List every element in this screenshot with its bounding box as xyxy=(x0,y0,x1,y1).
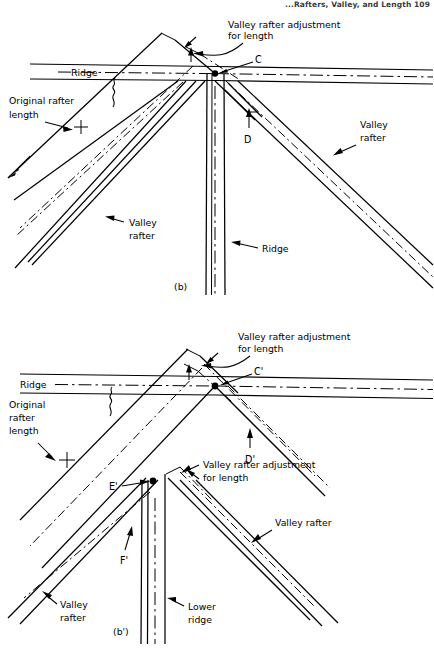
ridge-top-edge-right xyxy=(215,67,433,71)
ridge-centerline-left-bp xyxy=(55,385,213,387)
adj-tick-upper-b xyxy=(161,33,175,40)
adj2-tick-bp xyxy=(166,467,180,474)
label-original-bp-line1: Original xyxy=(9,399,45,410)
valley-main-centerline-bp xyxy=(30,368,202,546)
label-ridge-horizontal-b: Ridge xyxy=(71,67,98,78)
label-valley-left-bp-line2: rafter xyxy=(60,612,86,623)
ridge-bottom-edge-left xyxy=(30,79,215,81)
ridge-centerline-right-bp xyxy=(216,386,433,390)
ridge-top-edge-left-bp xyxy=(20,374,215,377)
lower-valley-right-outer-bp xyxy=(168,478,310,620)
label-ridge-vertical-b: Ridge xyxy=(262,243,289,254)
figure-b-drawing: Ridge D xyxy=(0,0,434,310)
label-point-c-prime-bp: C' xyxy=(254,366,263,377)
caption-figure-b-prime: (b') xyxy=(113,626,129,637)
valley-left-inner-edge-b xyxy=(32,81,205,265)
lower-ridge-left-edge-bp xyxy=(141,482,142,644)
arrowhead-d-prime-bp xyxy=(247,428,253,438)
label-lower-ridge-bp-line2: ridge xyxy=(188,614,212,625)
arrowhead-valley-right-b xyxy=(333,148,343,156)
lower-valley-left-inner-bp xyxy=(20,480,158,624)
label-point-c-b: C xyxy=(255,54,262,65)
lower-valley-right-centerline-bp xyxy=(180,472,316,608)
label-adjustment2-bp-line2: for length xyxy=(203,472,248,483)
ridge-bottom-edge-right xyxy=(215,81,433,85)
label-valley-right-bp: Valley rafter xyxy=(275,517,332,528)
valley-left-centerline-b xyxy=(20,66,193,228)
arrowhead-valley-right-bp xyxy=(251,534,261,543)
ridge-top-edge-right-bp xyxy=(215,377,433,381)
lower-ridge-inner-edge-bp xyxy=(148,480,149,644)
vertical-ridge-inner-left-b xyxy=(212,74,213,295)
arrowhead-original-rafter-b xyxy=(63,127,73,133)
label-valley-right-b-line2: rafter xyxy=(360,132,386,143)
label-adjustment-b-line2: for length xyxy=(228,30,273,41)
label-point-d-b: D xyxy=(244,134,251,145)
label-adjustment-bp-line2: for length xyxy=(238,343,283,354)
leader-adjustment-b xyxy=(198,43,243,55)
arrowhead-original-bp xyxy=(45,453,56,461)
ridge-bottom-edge-left-bp xyxy=(20,393,215,395)
label-adjustment-b-line1: Valley rafter adjustment xyxy=(228,19,341,30)
figure-b-prime-drawing: Ridge C' D' xyxy=(0,308,434,653)
arrowhead-ridge-vertical-b xyxy=(231,241,241,247)
label-valley-left-bp-line1: Valley xyxy=(60,599,88,610)
valley-left2-inner-edge-b xyxy=(15,81,186,268)
arrowhead-f-prime-bp xyxy=(127,526,133,536)
label-ridge-horizontal-bp: Ridge xyxy=(20,379,47,390)
label-original-bp-line3: length xyxy=(9,425,39,436)
ridge-top-edge-left xyxy=(30,64,215,67)
arrowhead-lower-ridge-bp xyxy=(167,597,176,603)
label-original-rafter-b-line2: length xyxy=(9,109,39,120)
lower-valley-right-ext-bp xyxy=(196,480,338,623)
break-squiggle-bp xyxy=(110,387,112,416)
caption-figure-b: (b) xyxy=(174,281,187,292)
label-adjustment-bp-line1: Valley rafter adjustment xyxy=(238,331,351,342)
vertical-ridge-left-edge-b xyxy=(206,74,207,295)
label-valley-left-b-line1: Valley xyxy=(129,217,157,228)
label-original-rafter-b-line1: Original rafter xyxy=(9,95,74,106)
ridge-bottom-edge-right-bp xyxy=(215,395,433,399)
arrowhead-valley-left-b xyxy=(105,216,115,222)
label-point-e-prime-bp: E' xyxy=(109,481,118,492)
adj-wedge-edge-b xyxy=(175,40,215,74)
label-adjustment2-bp-line1: Valley rafter adjustment xyxy=(203,459,316,470)
page-canvas: ...Rafters, Valley, and Length 109 Ridge xyxy=(0,0,434,653)
point-e-prime-dot-bp xyxy=(150,478,157,485)
lower-valley-left-centerline-bp xyxy=(24,492,150,598)
label-original-bp-line2: rafter xyxy=(9,412,35,423)
break-squiggle-b xyxy=(113,78,115,107)
vertical-ridge-right-edge-b xyxy=(224,74,225,295)
adj-wedge-edge-bp xyxy=(200,356,238,393)
label-valley-left-b-line2: rafter xyxy=(129,230,155,241)
label-point-f-prime-bp: F' xyxy=(120,555,128,566)
label-lower-ridge-bp-line1: Lower xyxy=(188,601,216,612)
adj-tick-upper-bp xyxy=(186,349,200,356)
ridge-centerline-right xyxy=(216,74,433,77)
valley-left-arrow-shaft-b xyxy=(8,156,30,178)
label-valley-right-b-line1: Valley xyxy=(360,119,388,130)
valley-right-inner-edge-b xyxy=(238,81,433,265)
arrowhead-adjustment2b-bp xyxy=(186,469,195,477)
